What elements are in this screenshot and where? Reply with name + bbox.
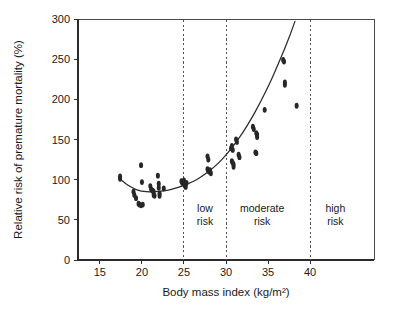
data-point <box>140 179 144 185</box>
data-point <box>237 154 241 160</box>
data-point <box>235 139 239 145</box>
data-point <box>134 195 138 201</box>
x-tick-label: 20 <box>136 266 148 278</box>
y-tick-label: 150 <box>52 134 70 146</box>
data-point <box>139 162 143 168</box>
data-point <box>141 202 145 208</box>
data-point <box>231 147 235 153</box>
y-tick-label: 300 <box>52 13 70 25</box>
data-point <box>209 170 213 176</box>
data-point <box>295 103 299 109</box>
data-point <box>255 134 259 140</box>
zone-label-line2: risk <box>197 215 214 227</box>
zone-label-line1: high <box>325 202 345 214</box>
data-point <box>263 107 267 113</box>
x-axis-title: Body mass index (kg/m²) <box>162 286 289 298</box>
data-point <box>283 82 287 88</box>
data-point <box>153 193 157 199</box>
zone-label-line2: risk <box>254 215 271 227</box>
risk-zone-labels: lowriskmoderateriskhighrisk <box>197 202 346 227</box>
y-tick-label: 100 <box>52 174 70 186</box>
zone-label-line1: low <box>197 202 213 214</box>
data-point <box>156 173 160 179</box>
x-tick-label: 35 <box>262 266 274 278</box>
y-tick-label: 250 <box>52 53 70 65</box>
x-tick-label: 30 <box>220 266 232 278</box>
y-axis-title: Relative risk of premature mortality (%) <box>12 40 24 239</box>
zone-label-line1: moderate <box>240 202 285 214</box>
data-point <box>158 193 162 199</box>
y-tick-label: 50 <box>58 214 70 226</box>
y-axis-ticks: 050100150200250300 <box>52 13 78 266</box>
fitted-j-curve <box>121 21 295 191</box>
data-point <box>157 185 161 191</box>
fitted-curve-group <box>121 21 295 191</box>
data-point <box>206 157 210 163</box>
data-point <box>162 186 166 192</box>
data-point <box>118 176 122 182</box>
data-point <box>232 164 236 170</box>
chart-figure: 050100150200250300 152025303540 lowriskm… <box>0 0 406 314</box>
data-point <box>254 150 258 156</box>
data-point <box>184 180 188 186</box>
data-point <box>282 59 286 65</box>
chart-canvas: 050100150200250300 152025303540 lowriskm… <box>0 0 406 314</box>
zone-label-line2: risk <box>327 215 344 227</box>
y-tick-label: 200 <box>52 93 70 105</box>
y-tick-label: 0 <box>64 254 70 266</box>
x-tick-label: 25 <box>178 266 190 278</box>
x-axis-ticks: 152025303540 <box>94 260 316 278</box>
x-tick-label: 15 <box>94 266 106 278</box>
x-tick-label: 40 <box>304 266 316 278</box>
